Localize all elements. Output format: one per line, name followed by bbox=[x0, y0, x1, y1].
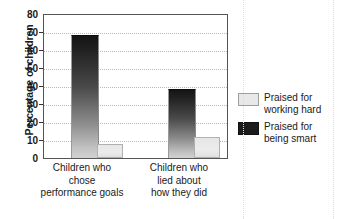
y-tick-label-40: 40 bbox=[18, 81, 38, 92]
x-axis-label-group2-line3: how they did bbox=[125, 187, 233, 200]
bar-chart-figure: Percentage of children 80 70 60 50 40 30… bbox=[0, 0, 341, 219]
x-axis-label-group1-line1: Children who bbox=[28, 162, 136, 175]
bar-group1-praised-being-smart bbox=[71, 35, 99, 158]
legend-label-working-hard-line1: Praised for bbox=[264, 92, 321, 104]
legend-swatch-light-icon bbox=[238, 93, 259, 106]
plot-area bbox=[43, 14, 228, 159]
scan-artifact-line-1 bbox=[243, 0, 244, 219]
legend-label-working-hard: Praised for working hard bbox=[264, 92, 321, 115]
legend-swatch-dark-icon bbox=[238, 122, 259, 135]
x-axis-label-group1-line2: chose bbox=[28, 175, 136, 188]
bar-group2-praised-working-hard bbox=[194, 137, 220, 158]
x-axis-label-group2-line2: lied about bbox=[125, 175, 233, 188]
y-tick-label-50: 50 bbox=[18, 63, 38, 74]
legend-item-working-hard: Praised for working hard bbox=[238, 92, 341, 115]
bars-layer bbox=[44, 15, 227, 158]
y-tick-label-30: 30 bbox=[18, 99, 38, 110]
legend-label-being-smart-line2: being smart bbox=[264, 133, 316, 145]
chart-legend: Praised for working hard Praised for bei… bbox=[238, 92, 341, 150]
y-axis-tick-labels: 80 70 60 50 40 30 20 10 0 bbox=[18, 9, 38, 161]
x-axis-label-group2-line1: Children who bbox=[125, 162, 233, 175]
legend-label-being-smart-line1: Praised for bbox=[264, 121, 316, 133]
y-tick-label-60: 60 bbox=[18, 45, 38, 56]
legend-item-being-smart: Praised for being smart bbox=[238, 121, 341, 144]
y-tick-label-80: 80 bbox=[18, 9, 38, 20]
bar-group1-praised-working-hard bbox=[97, 144, 123, 158]
legend-label-working-hard-line2: working hard bbox=[264, 104, 321, 116]
x-axis-label-group2: Children who lied about how they did bbox=[125, 162, 233, 200]
legend-label-being-smart: Praised for being smart bbox=[264, 121, 316, 144]
y-tick-label-10: 10 bbox=[18, 135, 38, 146]
y-tick-label-70: 70 bbox=[18, 27, 38, 38]
bar-group2-praised-being-smart bbox=[168, 89, 196, 158]
scan-artifact-line-2 bbox=[333, 0, 334, 219]
y-tick-label-20: 20 bbox=[18, 117, 38, 128]
x-axis-label-group1-line3: performance goals bbox=[28, 187, 136, 200]
x-axis-label-group1: Children who chose performance goals bbox=[28, 162, 136, 200]
